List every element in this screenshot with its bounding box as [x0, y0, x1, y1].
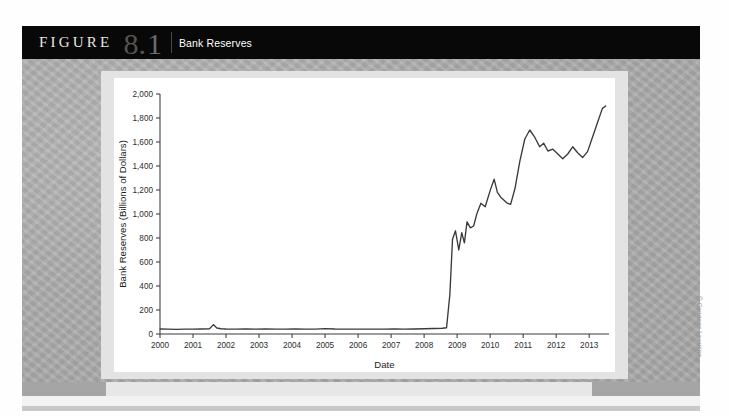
x-tick-label: 2001	[184, 341, 203, 350]
figure-label: FIGURE	[39, 34, 112, 51]
x-tick-label: 2010	[481, 341, 500, 350]
y-tick-label: 800	[139, 234, 153, 243]
y-tick-label: 1,600	[133, 138, 154, 147]
x-tick-label: 2013	[580, 341, 599, 350]
page-band-left	[22, 382, 106, 396]
y-tick-label: 1,800	[133, 114, 154, 123]
x-tick-label: 2004	[283, 341, 302, 350]
figure-container: FIGURE 8 . 1 Bank Reserves 0200400600800…	[0, 0, 729, 416]
page-band-middle	[106, 382, 592, 396]
x-tick-label: 2009	[448, 341, 467, 350]
bank-reserves-line-chart: 02004006008001,0001,2001,4001,6001,8002,…	[114, 78, 615, 372]
y-tick-label: 200	[139, 306, 153, 315]
x-tick-label: 2008	[415, 341, 434, 350]
y-tick-label: 400	[139, 282, 153, 291]
page-band-bottom	[22, 406, 700, 411]
y-tick-label: 0	[148, 330, 153, 339]
page-band-right	[592, 382, 700, 396]
y-tick-label: 1,400	[133, 162, 154, 171]
y-tick-label: 2,000	[133, 90, 154, 99]
copyright-credit: © Cengage Learning	[696, 296, 703, 357]
y-tick-label: 1,000	[133, 210, 154, 219]
x-tick-label: 2002	[217, 341, 236, 350]
x-tick-label: 2011	[514, 341, 532, 350]
figure-title: Bank Reserves	[179, 37, 252, 49]
figure-chapter-number: 8	[123, 29, 138, 59]
y-axis-title: Bank Reserves (Billions of Dollars)	[117, 140, 128, 288]
x-tick-label: 2007	[382, 341, 401, 350]
chart-plot-card: 02004006008001,0001,2001,4001,6001,8002,…	[114, 78, 615, 372]
x-tick-label: 2000	[151, 341, 170, 350]
y-tick-label: 600	[139, 258, 153, 267]
figure-sub-number: 1	[147, 29, 162, 59]
figure-header-bar: FIGURE 8 . 1 Bank Reserves	[22, 26, 700, 59]
x-tick-label: 2003	[250, 341, 269, 350]
page-band-pale	[22, 396, 700, 406]
x-axis-title: Date	[374, 359, 394, 370]
x-tick-label: 2012	[547, 341, 566, 350]
header-divider	[171, 32, 172, 53]
chart-outer-panel: 02004006008001,0001,2001,4001,6001,8002,…	[101, 71, 628, 379]
x-tick-label: 2005	[316, 341, 335, 350]
y-tick-label: 1,200	[133, 186, 154, 195]
figure-number-dot: .	[138, 29, 146, 59]
series-line-bank-reserves	[160, 106, 606, 329]
x-tick-label: 2006	[349, 341, 368, 350]
